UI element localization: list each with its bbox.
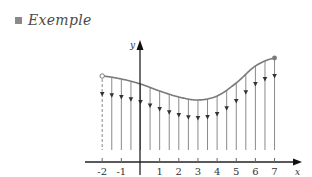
- down-arrow-icon: [196, 116, 201, 121]
- x-tick-label: 7: [271, 166, 277, 177]
- x-tick-label: -1: [116, 166, 126, 177]
- down-arrow-icon: [215, 112, 220, 117]
- x-axis-label: x: [295, 167, 300, 177]
- down-arrow-icon: [167, 110, 172, 115]
- down-arrow-icon: [253, 82, 258, 87]
- y-axis-label: y: [129, 40, 136, 50]
- down-arrow-icon: [100, 92, 105, 97]
- function-diagram: y x -2-11234567: [0, 0, 312, 177]
- x-tick-label: 1: [156, 166, 162, 177]
- down-arrow-icon: [186, 115, 191, 120]
- x-tick-label: 4: [214, 166, 220, 177]
- down-arrow-icon: [109, 93, 114, 98]
- x-tick-label: 3: [195, 166, 201, 177]
- x-axis-arrow-icon: [293, 159, 302, 166]
- down-arrow-icon: [157, 107, 162, 112]
- down-arrow-icon: [148, 103, 153, 108]
- x-tick-label: 2: [176, 166, 182, 177]
- down-arrow-icon: [205, 115, 210, 120]
- y-axis-arrow-icon: [137, 40, 144, 50]
- start-open-circle: [100, 74, 104, 78]
- down-arrow-icon: [119, 95, 124, 100]
- down-arrow-icon: [272, 74, 277, 79]
- end-filled-circle: [272, 56, 277, 61]
- down-arrow-icon: [177, 113, 182, 118]
- x-ticks: -2-11234567: [97, 158, 277, 177]
- down-arrow-icon: [263, 77, 268, 82]
- down-arrow-icon: [224, 106, 229, 111]
- x-tick-label: 5: [233, 166, 239, 177]
- down-arrow-icon: [244, 90, 249, 95]
- down-arrow-icon: [129, 97, 134, 102]
- x-tick-label: 6: [252, 166, 258, 177]
- down-arrow-icon: [234, 99, 239, 104]
- x-tick-label: -2: [97, 166, 107, 177]
- function-curve: [102, 58, 274, 100]
